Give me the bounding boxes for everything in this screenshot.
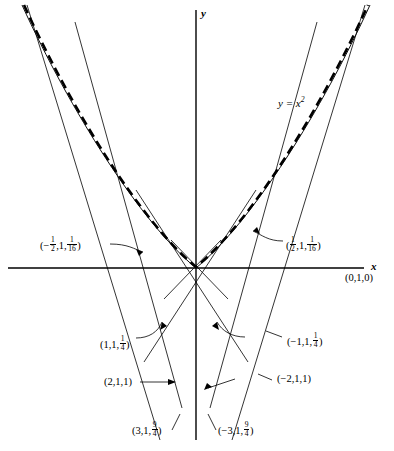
origin-label: (0,1,0) bbox=[345, 273, 373, 284]
label-point-one: (1,1,14) bbox=[100, 335, 130, 352]
label-point-neg-one: (−1,1,14) bbox=[287, 332, 322, 349]
curve-equation-base: y = x bbox=[278, 97, 301, 109]
leader-xneg1 bbox=[217, 322, 245, 337]
x-axis-label: x bbox=[371, 261, 377, 272]
tangent-line-x1 bbox=[136, 190, 248, 362]
tick-x3 bbox=[172, 414, 180, 430]
leader-xneg2 bbox=[208, 379, 235, 388]
label-point-neg-three: (−3,1,94) bbox=[218, 421, 253, 438]
curve-equation-label: y = x2 bbox=[278, 98, 305, 109]
tick-xneg3 bbox=[208, 414, 216, 430]
tangent-line-xneghalf bbox=[164, 240, 221, 299]
tick-xneg2 bbox=[258, 374, 272, 380]
label-point-pos-half: (12,1,116) bbox=[286, 236, 321, 253]
tick-xneg1 bbox=[266, 331, 282, 337]
figure-canvas: x y (0,1,0) y = x2 (−12,1,116) (12,1,116… bbox=[0, 0, 394, 451]
label-point-three: (3,1,94) bbox=[132, 421, 162, 438]
curve-equation-exponent: 2 bbox=[301, 95, 305, 104]
tangent-line-x3 bbox=[27, 5, 160, 440]
y-axis-label: y bbox=[201, 8, 206, 19]
label-point-neg-two: (−2,1,1) bbox=[277, 374, 311, 385]
tangent-line-xhalf bbox=[171, 240, 228, 299]
arrowhead-xneg2 bbox=[204, 383, 212, 390]
label-point-neg-half: (−12,1,116) bbox=[40, 236, 81, 253]
arrowhead-x2 bbox=[168, 379, 176, 385]
label-point-two: (2,1,1) bbox=[104, 377, 132, 388]
arrowhead-neghalf bbox=[136, 249, 143, 256]
figure-graphics bbox=[0, 0, 394, 451]
leader-x1 bbox=[136, 322, 162, 338]
